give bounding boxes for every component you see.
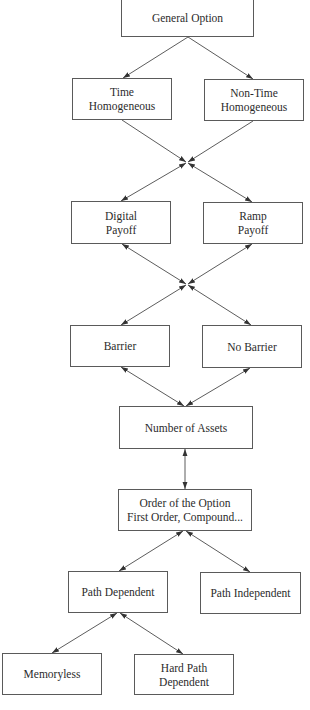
node-label: No Barrier xyxy=(227,340,277,354)
node-label: Path Independent xyxy=(210,586,290,600)
node-no-barrier: No Barrier xyxy=(202,325,302,368)
edge-pathdep-to-hardpath xyxy=(120,613,183,654)
node-path-dependent: Path Dependent xyxy=(68,571,168,613)
edge-barrier-to-assets xyxy=(121,367,184,406)
edge-time-to-junction1 xyxy=(122,120,186,162)
node-order-of-option: Order of the Option First Order, Compoun… xyxy=(118,489,252,531)
node-label: First Order, Compound... xyxy=(127,510,243,524)
edge-general-to-nontime xyxy=(188,37,253,79)
edge-nontime-to-junction1 xyxy=(188,121,253,162)
node-number-of-assets: Number of Assets xyxy=(119,406,253,449)
node-time-homogeneous: Time Homogeneous xyxy=(72,78,172,120)
node-label: Number of Assets xyxy=(145,421,227,435)
node-non-time-homogeneous: Non-Time Homogeneous xyxy=(204,79,304,121)
edge-general-to-time xyxy=(123,37,188,78)
node-label: Time xyxy=(110,85,134,99)
edge-junction2-to-barrier xyxy=(121,285,186,325)
node-digital-payoff: Digital Payoff xyxy=(71,201,171,244)
edge-junction2-to-nobarrier xyxy=(188,285,251,325)
node-label: Payoff xyxy=(238,223,268,237)
node-path-independent: Path Independent xyxy=(200,572,301,614)
node-label: Digital xyxy=(105,209,137,223)
node-label: Non-Time xyxy=(230,86,278,100)
node-label: Dependent xyxy=(159,675,209,689)
node-label: General Option xyxy=(152,11,223,25)
node-hard-path-dependent: Hard Path Dependent xyxy=(134,654,234,695)
edge-order-to-pathdep xyxy=(119,531,183,571)
edge-digital-to-junction2 xyxy=(122,244,186,284)
node-label: Path Dependent xyxy=(81,585,154,599)
option-classification-diagram: General Option Time Homogeneous Non-Time… xyxy=(0,0,310,710)
node-label: Payoff xyxy=(106,223,136,237)
node-label: Ramp xyxy=(239,209,266,223)
node-label: Barrier xyxy=(104,339,137,353)
node-label: Homogeneous xyxy=(89,99,155,113)
edge-nobarrier-to-assets xyxy=(186,368,250,406)
node-label: Hard Path xyxy=(161,661,207,675)
edge-ramp-to-junction2 xyxy=(188,244,252,284)
edge-junction1-to-ramp xyxy=(188,163,252,202)
node-ramp-payoff: Ramp Payoff xyxy=(203,202,303,244)
node-barrier: Barrier xyxy=(70,325,170,367)
node-memoryless: Memoryless xyxy=(2,653,102,695)
edge-pathdep-to-memoryless xyxy=(52,613,117,653)
node-label: Order of the Option xyxy=(139,496,230,510)
edge-junction1-to-digital xyxy=(121,163,186,201)
node-general-option: General Option xyxy=(121,0,254,37)
node-label: Homogeneous xyxy=(221,100,287,114)
node-label: Memoryless xyxy=(24,667,81,681)
edge-order-to-pathindep xyxy=(186,531,250,572)
